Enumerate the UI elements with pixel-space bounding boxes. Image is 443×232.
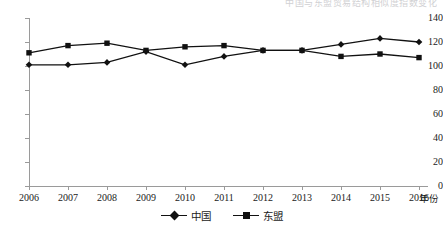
diamond-marker-icon (161, 211, 187, 221)
data-point (338, 54, 343, 59)
data-point (416, 39, 423, 46)
square-marker-icon (233, 211, 259, 221)
data-point (377, 35, 384, 42)
data-point (221, 53, 228, 60)
data-point (26, 50, 31, 55)
data-point (104, 41, 109, 46)
data-point (26, 62, 33, 69)
data-point (377, 51, 382, 56)
data-point (260, 48, 265, 53)
legend-label: 中国 (191, 208, 211, 223)
line-chart: 中国与东盟贸易结构相似度指数变化 140120100806040200 2006… (0, 0, 443, 232)
data-point (65, 43, 70, 48)
data-point (221, 43, 226, 48)
data-point (65, 62, 72, 69)
data-point (143, 48, 148, 53)
series-line-china (29, 38, 419, 64)
legend-label: 东盟 (263, 208, 283, 223)
data-point (104, 59, 111, 66)
series-plot-area (0, 0, 443, 232)
legend-item-asean[interactable]: 东盟 (233, 208, 283, 223)
chart-legend: 中国东盟 (0, 208, 443, 223)
legend-item-china[interactable]: 中国 (161, 208, 211, 223)
data-point (182, 62, 189, 69)
data-point (338, 41, 345, 48)
data-point (416, 55, 421, 60)
data-point (299, 48, 304, 53)
data-point (182, 44, 187, 49)
